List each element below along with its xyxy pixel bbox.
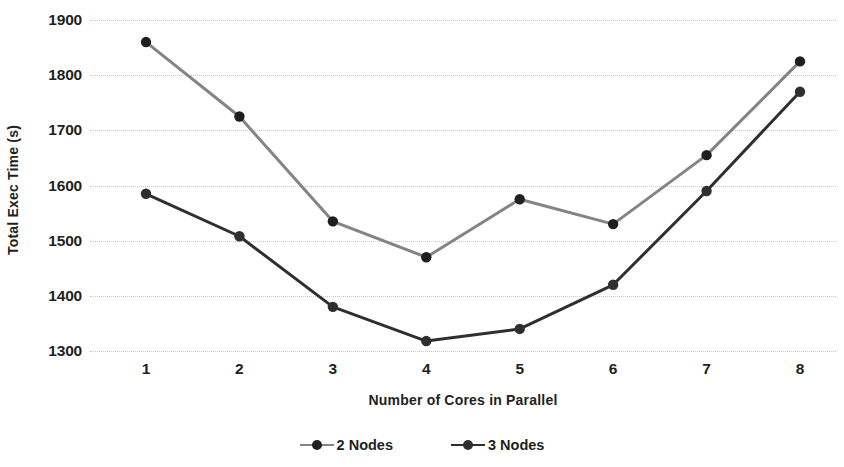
- y-axis-tick: 1900: [48, 11, 82, 29]
- legend-marker-icon: [300, 438, 334, 452]
- legend-label: 2 Nodes: [337, 437, 393, 453]
- x-axis-tick: 1: [142, 360, 151, 378]
- y-axis-tick: 1400: [48, 287, 82, 305]
- x-axis-tick-labels: 12345678: [90, 360, 836, 390]
- data-point: [141, 189, 151, 199]
- data-point: [234, 111, 244, 121]
- x-axis-title: Number of Cores in Parallel: [90, 392, 836, 408]
- y-axis-tick-labels: 1900180017001600150014001300: [26, 0, 88, 380]
- data-point: [515, 194, 525, 204]
- data-point: [141, 37, 151, 47]
- chart-container: Total Exec Time (s) 19001800170016001500…: [0, 0, 844, 467]
- legend-item[interactable]: 3 Nodes: [451, 437, 544, 453]
- x-axis-tick: 8: [796, 360, 805, 378]
- legend-marker-icon: [451, 438, 485, 452]
- data-point: [328, 302, 338, 312]
- legend-label: 3 Nodes: [488, 437, 544, 453]
- data-point: [515, 324, 525, 334]
- data-point: [234, 231, 244, 241]
- x-axis-tick: 2: [235, 360, 244, 378]
- y-axis-tick: 1500: [48, 232, 82, 250]
- data-point: [421, 252, 431, 262]
- legend-item[interactable]: 2 Nodes: [300, 437, 393, 453]
- series-1: [141, 37, 805, 263]
- y-axis-title-label: Total Exec Time (s): [5, 125, 21, 255]
- x-axis-tick: 3: [329, 360, 338, 378]
- data-point: [421, 336, 431, 346]
- data-point: [701, 186, 711, 196]
- series-lines: [90, 0, 836, 371]
- chart-legend: 2 Nodes3 Nodes: [0, 437, 844, 453]
- series-line: [146, 42, 800, 257]
- data-point: [795, 87, 805, 97]
- x-axis-tick: 5: [515, 360, 524, 378]
- data-point: [795, 56, 805, 66]
- y-axis-title: Total Exec Time (s): [0, 0, 26, 380]
- data-point: [328, 216, 338, 226]
- series-2: [141, 87, 805, 347]
- data-point: [701, 150, 711, 160]
- x-axis-tick: 7: [702, 360, 711, 378]
- plot-area: [90, 0, 836, 371]
- y-axis-tick: 1800: [48, 66, 82, 84]
- series-line: [146, 92, 800, 341]
- y-axis-tick: 1600: [48, 177, 82, 195]
- data-point: [608, 280, 618, 290]
- x-axis-tick: 4: [422, 360, 431, 378]
- y-axis-tick: 1300: [48, 342, 82, 360]
- x-axis-tick: 6: [609, 360, 618, 378]
- y-axis-tick: 1700: [48, 121, 82, 139]
- data-point: [608, 219, 618, 229]
